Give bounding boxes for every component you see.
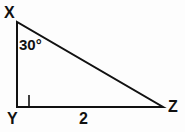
angle-label-x: 30° [19, 37, 42, 52]
vertex-label-y: Y [7, 111, 18, 127]
right-angle-marker-icon [17, 95, 29, 107]
vertex-label-z: Z [168, 99, 178, 115]
vertex-label-x: X [4, 5, 15, 21]
geometry-figure: X Y Z 30° 2 [0, 0, 185, 132]
triangle-outline [17, 22, 163, 107]
side-label-yz: 2 [79, 111, 88, 127]
triangle-drawing [0, 0, 185, 132]
